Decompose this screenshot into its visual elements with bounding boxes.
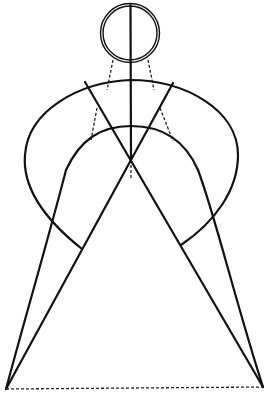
- diagram-svg: [0, 0, 268, 395]
- figure-diagram: Proportional construction of a figure: [0, 0, 268, 395]
- base-dashed-line: [6, 387, 263, 389]
- center-axis-line: [131, 5, 132, 160]
- neck-guide-left-upper: [107, 60, 113, 90]
- neck-guide-right-upper: [148, 60, 154, 90]
- diagonal-right-to-left: [6, 83, 173, 389]
- diagonal-left-to-right: [85, 82, 263, 387]
